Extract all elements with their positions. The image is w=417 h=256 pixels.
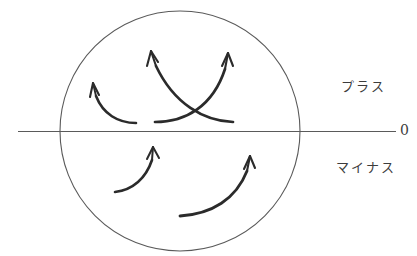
arrow-lower-right-shaft	[180, 171, 247, 216]
minus-label: マイナス	[336, 161, 396, 174]
diagram-canvas: プラス マイナス 0	[0, 0, 417, 256]
arrow-cross-up-right	[155, 53, 233, 122]
arrow-lower-left	[115, 147, 159, 192]
arrow-cross-up-right-shaft	[155, 69, 225, 122]
arrow-upper-left	[90, 83, 136, 123]
hand-drawn-diagram	[0, 0, 417, 256]
arrows-group	[90, 51, 255, 216]
arrow-upper-left-shaft	[96, 96, 136, 123]
arrow-lower-right	[180, 156, 255, 216]
arrow-lower-left-shaft	[115, 160, 152, 192]
zero-label: 0	[400, 123, 409, 137]
arrow-cross-up-left-shaft	[156, 66, 233, 122]
arrow-cross-up-left	[147, 51, 233, 122]
plus-label: プラス	[341, 80, 386, 93]
